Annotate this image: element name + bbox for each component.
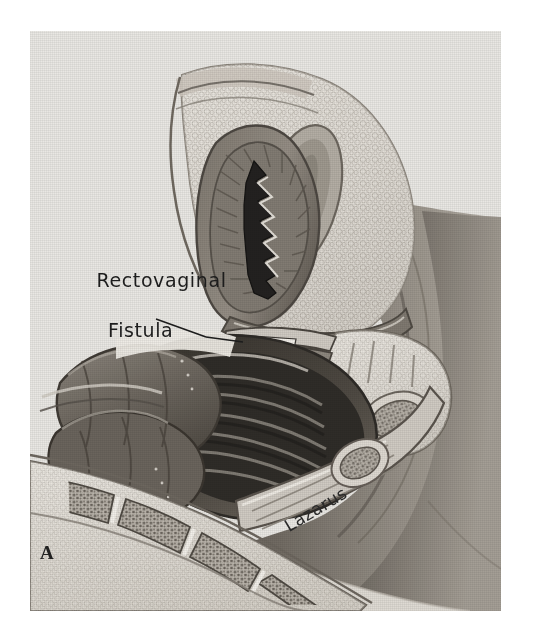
- panel-letter: A: [40, 542, 54, 564]
- fistula-label-line1: Rectovaginal: [97, 269, 227, 291]
- fistula-label: Rectovaginal Fistula: [70, 243, 227, 393]
- figure-root: Lazarus Rectovaginal Fistula A: [0, 0, 536, 639]
- fistula-label-line2: Fistula: [70, 318, 227, 343]
